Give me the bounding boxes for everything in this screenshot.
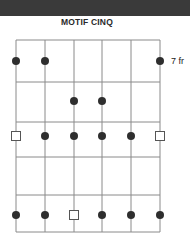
finger-dot-icon (41, 132, 49, 140)
finger-dot-icon (12, 57, 20, 65)
finger-dot-icon (41, 211, 49, 219)
finger-dot-icon (156, 57, 164, 65)
finger-dot-icon (156, 211, 164, 219)
fretboard-grid (16, 40, 160, 232)
finger-dot-icon (70, 132, 78, 140)
finger-dot-icon (98, 97, 106, 105)
finger-dot-icon (70, 97, 78, 105)
root-note-square-icon (12, 132, 21, 141)
finger-dot-icon (12, 211, 20, 219)
fretboard-diagram (0, 0, 190, 249)
finger-dot-icon (98, 211, 106, 219)
finger-dot-icon (41, 57, 49, 65)
root-note-square-icon (156, 132, 165, 141)
finger-dot-icon (98, 132, 106, 140)
root-note-square-icon (70, 211, 79, 220)
finger-dot-icon (127, 132, 135, 140)
finger-dot-icon (127, 211, 135, 219)
fret-position-label: 7 fr (171, 56, 184, 66)
